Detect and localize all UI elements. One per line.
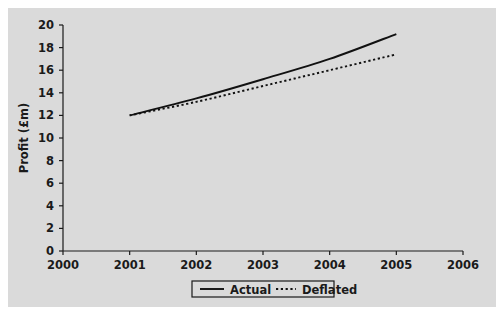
x-axis-ticks bbox=[63, 251, 463, 255]
y-tick-label: 6 bbox=[46, 176, 54, 190]
chart-figure: 02468101214161820 Profit (£m) 2000200120… bbox=[0, 0, 504, 315]
y-tick-label: 18 bbox=[38, 41, 54, 55]
y-axis-tick-labels: 02468101214161820 bbox=[38, 18, 54, 258]
y-tick-label: 10 bbox=[38, 131, 54, 145]
y-tick-label: 14 bbox=[38, 86, 54, 100]
y-tick-label: 0 bbox=[46, 244, 54, 258]
x-tick-label: 2005 bbox=[380, 258, 412, 272]
legend-label-deflated: Deflated bbox=[302, 283, 357, 297]
x-tick-label: 2002 bbox=[180, 258, 212, 272]
y-tick-label: 16 bbox=[38, 63, 54, 77]
y-axis-group: 02468101214161820 Profit (£m) bbox=[17, 18, 63, 258]
y-tick-label: 8 bbox=[46, 154, 54, 168]
line-chart: 02468101214161820 Profit (£m) 2000200120… bbox=[0, 0, 504, 315]
y-tick-label: 12 bbox=[38, 108, 54, 122]
data-series-group bbox=[130, 34, 397, 115]
series-line-actual bbox=[130, 34, 397, 115]
legend-label-actual: Actual bbox=[230, 283, 271, 297]
x-axis-group: 2000200120022003200420052006 bbox=[47, 251, 479, 272]
chart-legend: Actual Deflated bbox=[192, 281, 357, 297]
x-tick-label: 2000 bbox=[47, 258, 79, 272]
x-tick-label: 2001 bbox=[114, 258, 146, 272]
x-axis-tick-labels: 2000200120022003200420052006 bbox=[47, 258, 479, 272]
y-tick-label: 20 bbox=[38, 18, 54, 32]
x-tick-label: 2003 bbox=[247, 258, 279, 272]
y-tick-label: 4 bbox=[46, 199, 54, 213]
x-tick-label: 2006 bbox=[447, 258, 479, 272]
y-axis-title: Profit (£m) bbox=[17, 103, 31, 174]
x-tick-label: 2004 bbox=[314, 258, 346, 272]
y-tick-label: 2 bbox=[46, 221, 54, 235]
